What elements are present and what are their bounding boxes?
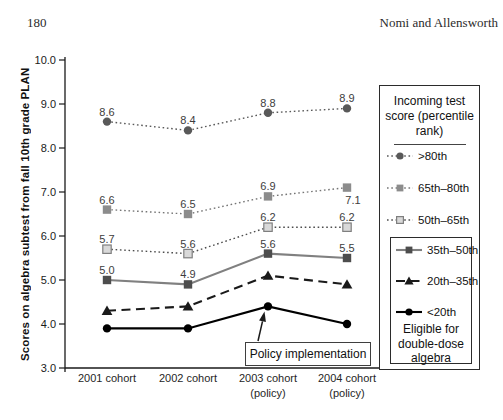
legend-title: Incoming test score (percentile rank) xyxy=(380,94,479,139)
x-tick-label: (policy) xyxy=(329,387,364,399)
data-label: 5.0 xyxy=(99,264,114,276)
y-tick-label: 4.0 xyxy=(41,318,56,330)
data-label: 6.5 xyxy=(180,198,195,210)
legend-sample-dotted-circle xyxy=(387,150,413,162)
legend-label: >80th xyxy=(418,150,447,162)
eligible-group-box: 35th–50th20th–35th<20th Eligible for dou… xyxy=(390,237,472,364)
legend-divider xyxy=(394,144,466,145)
legend-label: 65th–80th xyxy=(418,182,469,194)
x-tick-label: 2004 cohort xyxy=(318,372,376,384)
x-tick-label: 2001 cohort xyxy=(78,372,136,384)
y-tick-label: 9.0 xyxy=(41,98,56,110)
series-35th–50th: 5.04.95.65.5 xyxy=(99,238,354,289)
legend-item-50th–65th: 50th–65th xyxy=(387,213,469,227)
legend-item-65th–80th: 65th–80th xyxy=(387,181,469,195)
y-tick-label: 10.0 xyxy=(35,54,56,66)
legend-item-<20th: <20th xyxy=(396,305,456,319)
y-axis-title: Scores on algebra subtest from fall 10th… xyxy=(16,58,34,370)
legend: Incoming test score (percentile rank) >8… xyxy=(379,85,480,370)
legend-item-35th–50th: 35th–50th xyxy=(396,243,478,257)
legend-label: 50th–65th xyxy=(418,214,469,226)
paper-page: 180 Nomi and Allensworth 3.04.05.06.07.0… xyxy=(0,0,503,420)
legend-sample-solid-circle xyxy=(396,306,422,318)
data-label: 8.9 xyxy=(339,92,354,104)
legend-item->80th: >80th xyxy=(387,149,447,163)
series-50th–65th: 5.75.66.26.2 xyxy=(99,211,354,258)
y-tick-label: 7.0 xyxy=(41,186,56,198)
x-tick-label: (policy) xyxy=(250,387,285,399)
series-65th–80th: 6.66.56.97.1 xyxy=(99,180,360,218)
y-tick-label: 6.0 xyxy=(41,230,56,242)
series-20th–35th xyxy=(102,270,353,315)
data-label: 5.5 xyxy=(339,242,354,254)
legend-label: 20th–35th xyxy=(427,275,478,287)
legend-label: <20th xyxy=(427,306,456,318)
data-label: 5.6 xyxy=(260,238,275,250)
series-<20th xyxy=(103,302,351,332)
y-tick-label: 5.0 xyxy=(41,274,56,286)
annotation-arrow xyxy=(258,312,266,342)
data-label: 7.1 xyxy=(345,194,360,206)
x-tick-label: 2003 cohort xyxy=(239,372,297,384)
eligible-note: Eligible for double-dose algebra xyxy=(391,322,471,366)
data-label: 8.4 xyxy=(180,114,195,126)
legend-label: 35th–50th xyxy=(427,244,478,256)
legend-sample-dashed-triangle xyxy=(396,275,422,287)
policy-annotation: Policy implementation xyxy=(245,342,371,366)
data-label: 4.9 xyxy=(180,268,195,280)
data-label: 6.6 xyxy=(99,194,114,206)
x-tick-label: 2002 cohort xyxy=(159,372,217,384)
data-label: 6.9 xyxy=(260,180,275,192)
y-tick-label: 8.0 xyxy=(41,142,56,154)
legend-sample-solid-square xyxy=(396,244,422,256)
y-tick-label: 3.0 xyxy=(41,362,56,374)
legend-sample-dotted-square xyxy=(387,182,413,194)
series->80th: 8.68.48.88.9 xyxy=(99,92,354,134)
data-label: 6.2 xyxy=(260,211,275,223)
data-label: 8.8 xyxy=(260,97,275,109)
legend-sample-dotted-square-open xyxy=(387,214,413,226)
legend-item-20th–35th: 20th–35th xyxy=(396,274,478,288)
data-label: 6.2 xyxy=(339,211,354,223)
data-label: 5.7 xyxy=(99,233,114,245)
data-label: 8.6 xyxy=(99,106,114,118)
data-label: 5.6 xyxy=(180,238,195,250)
